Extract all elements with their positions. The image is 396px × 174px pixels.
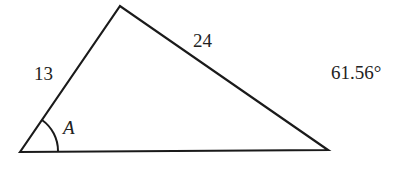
side-label-24: 24	[193, 31, 212, 50]
angle-label-a: A	[63, 118, 75, 137]
side-label-13: 13	[34, 64, 53, 83]
triangle-diagram	[0, 0, 396, 174]
angle-value: 61.56°	[331, 63, 381, 82]
angle-arc	[42, 120, 58, 151]
